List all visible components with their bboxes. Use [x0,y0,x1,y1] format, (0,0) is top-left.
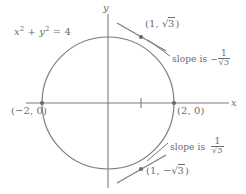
sqrt-symbol-top-right: √3 [162,19,175,29]
point-label-bottom-right: (1, −√3) [146,166,189,176]
slope-annotation-upper-sign: − [210,54,218,64]
slope-denominator-lower: √3 [211,147,223,155]
y-axis-label: y [103,3,109,13]
slope-fraction-lower: 1√3 [211,137,223,155]
slope-annotation-lower-text: slope is [170,142,205,152]
point-label-top-right-close: ) [175,18,179,29]
slope-annotation-lower: slope is 1√3 [170,138,224,156]
point-marker-bottom-right [139,167,143,171]
point-marker-top-right [139,35,143,39]
slope-denominator-upper: √3 [218,59,230,67]
leader-line-lower-slope [147,143,168,161]
slope-annotation-upper: slope is −1√3 [172,50,230,68]
radicand-denominator-upper: 3 [224,58,229,67]
equation-rhs: = 4 [49,26,71,37]
sqrt-symbol-bottom-right: √3 [172,166,185,176]
circle-equation-label: x2 + y2 = 4 [14,27,71,37]
point-label-right-intercept: (2, 0) [177,106,205,116]
point-label-top-right-open: (1, [145,18,159,29]
slope-fraction-upper: 1√3 [218,49,230,67]
point-label-left-intercept: (−2, 0) [11,106,47,116]
point-label-bottom-right-open: (1, [146,165,160,176]
slope-numerator-upper: 1 [220,49,228,58]
point-label-bottom-right-minus: − [163,165,171,176]
point-marker-right-intercept [172,101,176,105]
slope-numerator-lower: 1 [213,137,221,146]
figure-canvas: x2 + y2 = 4 y x (1, √3) (1, −√3) (−2, 0)… [0,0,246,194]
radicand-denominator-lower: 3 [217,146,222,155]
equation-plus: + [24,26,39,37]
point-label-bottom-right-close: ) [185,165,189,176]
x-axis-label: x [231,98,237,108]
point-label-top-right: (1, √3) [145,19,180,29]
slope-annotation-upper-text: slope is [172,54,207,64]
radicand-bottom-right: 3 [178,164,185,176]
